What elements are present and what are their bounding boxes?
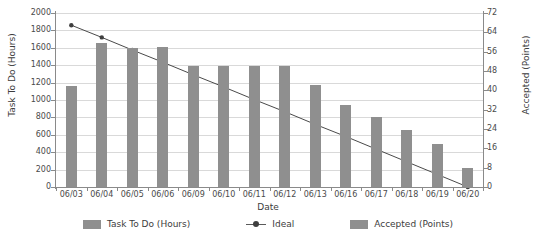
x-axis-tick-label: 06/20: [448, 190, 488, 199]
legend-item-task-to-do[interactable]: Task To Do (Hours): [83, 219, 190, 229]
tick-mark: [51, 65, 55, 66]
tick-mark: [51, 170, 55, 171]
legend-label: Task To Do (Hours): [107, 219, 190, 229]
legend-swatch-icon: [83, 220, 101, 229]
y-axis-right-tick-label: 56: [487, 48, 509, 56]
gridline: [56, 48, 483, 49]
tick-mark: [484, 52, 488, 53]
y-axis-left-title: Task To Do (Hours): [7, 15, 17, 135]
tick-mark: [484, 148, 488, 149]
gridline: [56, 135, 483, 136]
gridline: [56, 117, 483, 118]
y-axis-left-tick-label: 1400: [21, 61, 51, 69]
tick-mark: [392, 188, 393, 191]
y-axis-left-tick-label: 1600: [21, 44, 51, 52]
bar: [340, 105, 351, 187]
y-axis-left-tick-label: 0: [21, 183, 51, 191]
y-axis-left-tick-label: 200: [21, 166, 51, 174]
ideal-data-point: [69, 23, 73, 27]
tick-mark: [51, 152, 55, 153]
y-axis-right-tick-label: 64: [487, 28, 509, 36]
tick-mark: [51, 83, 55, 84]
tick-mark: [87, 188, 88, 191]
tick-mark: [51, 117, 55, 118]
gridline: [56, 30, 483, 31]
tick-mark: [51, 187, 55, 188]
bar: [371, 117, 382, 187]
tick-mark: [484, 187, 488, 188]
tick-mark: [484, 110, 488, 111]
tick-mark: [361, 188, 362, 191]
gridline: [56, 152, 483, 153]
legend-line-marker-icon: [246, 220, 266, 229]
tick-mark: [484, 168, 488, 169]
tick-mark: [148, 188, 149, 191]
y-axis-left-tick-label: 600: [21, 131, 51, 139]
bar: [188, 66, 199, 187]
tick-mark: [484, 32, 488, 33]
tick-mark: [270, 188, 271, 191]
plot-area: [56, 13, 483, 187]
burndown-chart: 0200400600800100012001400160018002000 08…: [0, 0, 536, 239]
tick-mark: [51, 13, 55, 14]
bar: [127, 48, 138, 187]
gridline: [56, 100, 483, 101]
y-axis-right-tick-label: 72: [487, 9, 509, 17]
y-axis-right-line: [483, 11, 484, 189]
y-axis-left-tick-label: 800: [21, 113, 51, 121]
ideal-data-point: [100, 35, 104, 39]
tick-mark: [51, 48, 55, 49]
y-axis-right-tick-label: 24: [487, 125, 509, 133]
bar: [249, 66, 260, 187]
legend-item-ideal[interactable]: Ideal: [246, 219, 294, 229]
chart-legend: Task To Do (Hours) Ideal Accepted (Point…: [0, 214, 536, 234]
bar: [96, 43, 107, 187]
y-axis-left-tick-label: 1800: [21, 26, 51, 34]
gridline: [56, 65, 483, 66]
bar: [279, 66, 290, 187]
y-axis-right-tick-label: 32: [487, 106, 509, 114]
y-axis-left-tick-label: 1200: [21, 79, 51, 87]
tick-mark: [453, 188, 454, 191]
bar: [401, 130, 412, 187]
legend-label: Accepted (Points): [374, 219, 453, 229]
tick-mark: [300, 188, 301, 191]
bar: [462, 168, 473, 187]
tick-mark: [484, 129, 488, 130]
tick-mark: [209, 188, 210, 191]
bar: [66, 86, 77, 187]
tick-mark: [331, 188, 332, 191]
y-axis-right-tick-label: 0: [487, 183, 509, 191]
tick-mark: [239, 188, 240, 191]
tick-mark: [484, 13, 488, 14]
tick-mark: [484, 90, 488, 91]
legend-label: Ideal: [272, 219, 294, 229]
x-axis-title: Date: [0, 202, 536, 212]
y-axis-right-title: Accepted (Points): [521, 15, 531, 135]
gridline: [56, 170, 483, 171]
y-axis-left-tick-label: 400: [21, 148, 51, 156]
y-axis-left-tick-label: 1000: [21, 96, 51, 104]
gridline: [56, 13, 483, 14]
legend-swatch-icon: [350, 220, 368, 229]
y-axis-right-tick-label: 16: [487, 144, 509, 152]
tick-mark: [117, 188, 118, 191]
y-axis-left-tick-label: 2000: [21, 9, 51, 17]
tick-mark: [51, 135, 55, 136]
tick-mark: [178, 188, 179, 191]
bar: [218, 66, 229, 187]
bar: [157, 47, 168, 187]
y-axis-right-tick-label: 40: [487, 86, 509, 94]
y-axis-left-line: [55, 11, 56, 189]
tick-mark: [51, 30, 55, 31]
tick-mark: [422, 188, 423, 191]
y-axis-right-tick-label: 8: [487, 164, 509, 172]
tick-mark: [51, 100, 55, 101]
tick-mark: [56, 188, 57, 191]
tick-mark: [484, 71, 488, 72]
tick-mark: [483, 188, 484, 191]
bar: [432, 144, 443, 187]
y-axis-right-tick-label: 48: [487, 67, 509, 75]
legend-item-accepted[interactable]: Accepted (Points): [350, 219, 453, 229]
bar: [310, 85, 321, 187]
